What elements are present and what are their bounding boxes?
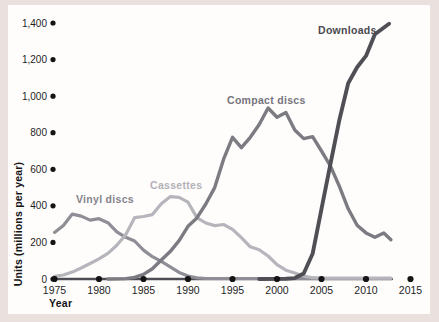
x-tick-dot [318,276,324,282]
x-tick-dot [407,276,413,282]
y-tick-label: 0 [41,274,47,285]
y-tick-dot [50,94,55,99]
chart-svg: 02004006008001,0001,2001,400197519801985… [0,0,439,322]
series-label-downloads: Downloads [318,24,377,36]
series-label-compact-discs: Compact discs [227,94,306,106]
x-tick-dot [274,276,280,282]
y-tick-dot [50,167,55,172]
x-tick-label: 1975 [43,284,67,296]
x-tick-label: 2010 [354,284,378,296]
x-tick-label: 2000 [265,284,289,296]
y-tick-dot [50,203,55,208]
series-label-vinyl-discs: Vinyl discs [76,193,134,205]
x-tick-dot [363,276,369,282]
x-tick-label: 1995 [221,284,245,296]
x-tick-dot [140,276,146,282]
y-tick-label: 200 [30,237,47,248]
x-tick-dot [96,276,102,282]
x-tick-dot [185,276,191,282]
y-tick-dot [50,130,55,135]
series-line-cassettes [55,197,391,278]
series-line-downloads [259,24,389,279]
x-tick-label: 1990 [176,284,200,296]
figure-root: { "colors": { "frame": "#eae1df", "panel… [0,0,439,322]
x-tick-dot [51,276,57,282]
x-tick-label: 2015 [399,284,423,296]
series-label-cassettes: Cassettes [150,179,202,191]
y-tick-dot [50,20,55,25]
y-tick-label: 1,000 [22,91,47,102]
x-axis-title: Year [49,297,72,309]
y-tick-label: 1,400 [22,18,47,29]
y-tick-label: 600 [30,164,47,175]
x-tick-label: 2005 [310,284,334,296]
y-tick-label: 400 [30,200,47,211]
y-axis-title: Units (millions per year) [12,162,24,287]
x-tick-label: 1980 [87,284,111,296]
y-tick-label: 1,200 [22,54,47,65]
x-tick-label: 1985 [132,284,156,296]
y-tick-dot [50,57,55,62]
y-tick-label: 800 [30,127,47,138]
y-tick-dot [50,240,55,245]
x-tick-dot [229,276,235,282]
